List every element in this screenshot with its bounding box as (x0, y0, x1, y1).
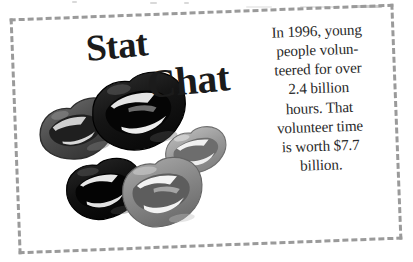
stat-text-line: billion. (253, 153, 390, 177)
lips-light-gray-closed-right-icon (160, 122, 234, 180)
title-stat: Stat (84, 24, 149, 67)
stat-chat-infographic: Stat Chat In 1996, young people volun- t… (0, 0, 413, 262)
lips-black-closed-bottom-icon (60, 153, 148, 228)
lips-medium-gray-open-bottom-icon (115, 151, 210, 236)
stat-text-block: In 1996, young people volun- teered for … (248, 19, 389, 177)
lips-dark-gray-open-left-icon (31, 94, 125, 165)
title-chat: Chat (145, 57, 231, 105)
frame-content: Stat Chat In 1996, young people volun- t… (10, 4, 402, 253)
